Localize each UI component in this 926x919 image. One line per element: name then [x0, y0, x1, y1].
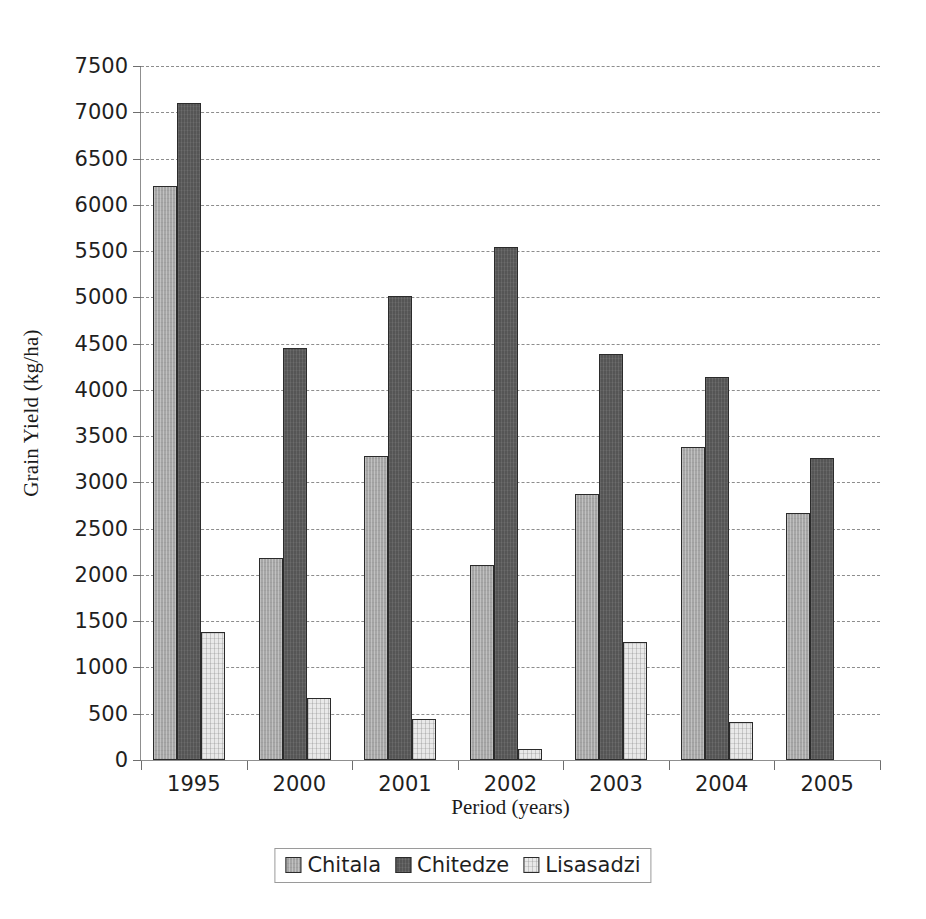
y-axis-tick	[133, 390, 141, 391]
bar-lisasadzi-2003	[623, 642, 647, 760]
y-axis-tick	[133, 667, 141, 668]
y-axis-tick	[133, 575, 141, 576]
x-axis-tick-label: 1995	[141, 772, 247, 796]
y-axis-tick-label: 5000	[48, 285, 128, 309]
y-axis-tick	[133, 344, 141, 345]
x-axis-tick	[352, 761, 353, 770]
y-axis-tick-label: 6500	[48, 146, 128, 170]
y-axis-tick-label: 2500	[48, 516, 128, 540]
y-axis-tick-label: 2000	[48, 562, 128, 586]
gridline	[141, 159, 880, 160]
y-axis-tick-label: 6000	[48, 192, 128, 216]
gridline	[141, 205, 880, 206]
chart-legend: ChitalaChitedzeLisasadzi	[274, 848, 651, 883]
bar-lisasadzi-2000	[307, 698, 331, 760]
bar-chitedze-2000	[283, 348, 307, 760]
x-axis-tick-label: 2003	[563, 772, 669, 796]
legend-swatch-icon	[395, 857, 411, 873]
bar-chitala-2001	[364, 456, 388, 760]
grain-yield-bar-chart: Grain Yield (kg/ha) 05001000150020002500…	[0, 0, 926, 919]
y-axis-tick	[133, 297, 141, 298]
bar-chitala-2004	[681, 447, 705, 760]
y-axis-tick	[133, 159, 141, 160]
x-axis-tick-label: 2000	[247, 772, 353, 796]
x-axis-tick	[141, 761, 142, 770]
plot-area	[141, 66, 880, 760]
y-axis-tick-label: 1500	[48, 609, 128, 633]
y-axis-tick	[133, 66, 141, 67]
bar-chitala-2002	[470, 565, 494, 760]
x-axis-tick	[563, 761, 564, 770]
bar-chitedze-2003	[599, 354, 623, 760]
x-axis-tick-label: 2005	[774, 772, 880, 796]
y-axis-tick	[133, 251, 141, 252]
y-axis-tick-label: 7500	[48, 54, 128, 78]
legend-item-chitala[interactable]: Chitala	[285, 853, 381, 877]
x-axis-tick-label: 2004	[669, 772, 775, 796]
x-axis-tick	[774, 761, 775, 770]
y-axis-tick	[133, 529, 141, 530]
bar-chitedze-2001	[388, 296, 412, 760]
gridline	[141, 760, 880, 761]
bar-lisasadzi-1995	[201, 632, 225, 760]
bar-chitedze-1995	[177, 103, 201, 760]
y-axis-tick-label: 5500	[48, 239, 128, 263]
bar-chitala-1995	[153, 186, 177, 760]
y-axis-tick-labels: 0500100015002000250030003500400045005000…	[42, 0, 128, 919]
y-axis-tick-label: 1000	[48, 655, 128, 679]
y-axis-tick	[133, 436, 141, 437]
legend-item-chitedze[interactable]: Chitedze	[395, 853, 509, 877]
y-axis-tick-label: 500	[48, 701, 128, 725]
y-axis-tick	[133, 760, 141, 761]
bar-chitala-2005	[786, 513, 810, 760]
y-axis-tick	[133, 205, 141, 206]
y-axis-tick	[133, 621, 141, 622]
x-axis-title: Period (years)	[141, 795, 880, 820]
bar-chitedze-2002	[494, 247, 518, 760]
y-axis-tick-label: 4500	[48, 331, 128, 355]
y-axis-tick	[133, 112, 141, 113]
x-axis-tick	[458, 761, 459, 770]
y-axis-tick	[133, 482, 141, 483]
bar-chitala-2000	[259, 558, 283, 760]
x-axis-tick	[880, 761, 881, 770]
bar-lisasadzi-2001	[412, 719, 436, 760]
y-axis-tick-label: 3500	[48, 424, 128, 448]
legend-label: Chitala	[307, 853, 381, 877]
y-axis-tick-label: 7000	[48, 100, 128, 124]
x-axis-tick-label: 2002	[458, 772, 564, 796]
bar-chitedze-2004	[705, 377, 729, 760]
legend-item-lisasadzi[interactable]: Lisasadzi	[523, 853, 640, 877]
legend-label: Chitedze	[417, 853, 509, 877]
y-axis-tick-label: 0	[48, 748, 128, 772]
legend-swatch-icon	[523, 857, 539, 873]
y-axis-tick-label: 4000	[48, 377, 128, 401]
bar-chitala-2003	[575, 494, 599, 760]
legend-swatch-icon	[285, 857, 301, 873]
y-axis-tick	[133, 714, 141, 715]
bar-lisasadzi-2002	[518, 749, 542, 760]
bar-chitedze-2005	[810, 458, 834, 760]
x-axis-tick-label: 2001	[352, 772, 458, 796]
legend-label: Lisasadzi	[545, 853, 640, 877]
x-axis-tick	[669, 761, 670, 770]
gridline	[141, 112, 880, 113]
bar-lisasadzi-2004	[729, 722, 753, 760]
y-axis-tick-label: 3000	[48, 470, 128, 494]
x-axis-tick	[247, 761, 248, 770]
gridline	[141, 66, 880, 67]
